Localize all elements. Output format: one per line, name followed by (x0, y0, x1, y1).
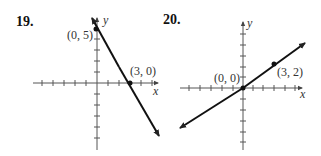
graph-20: 20. y x (0, 0) (3, 2) (163, 12, 306, 150)
point-label-0-0: (0, 0) (214, 71, 240, 85)
problem-number-20: 20. (163, 12, 181, 27)
figure: 19. y x (0, 5) (3, 0) 20. (0, 0, 321, 156)
x-axis-label: x (299, 87, 306, 101)
point-0-0 (241, 86, 246, 91)
x-axis-label: x (152, 84, 159, 98)
point-0-5 (94, 27, 99, 32)
point-label-3-0: (3, 0) (130, 64, 156, 78)
problem-number-19: 19. (16, 14, 34, 29)
point-3-0 (128, 81, 133, 86)
point-label-0-5: (0, 5) (67, 28, 93, 42)
y-axis-label: y (246, 16, 253, 30)
y-axis-label: y (102, 13, 109, 27)
graph-line (180, 88, 243, 128)
graph-19: 19. y x (0, 5) (3, 0) (16, 13, 159, 150)
point-3-2 (272, 62, 277, 67)
point-label-3-2: (3, 2) (277, 65, 303, 79)
